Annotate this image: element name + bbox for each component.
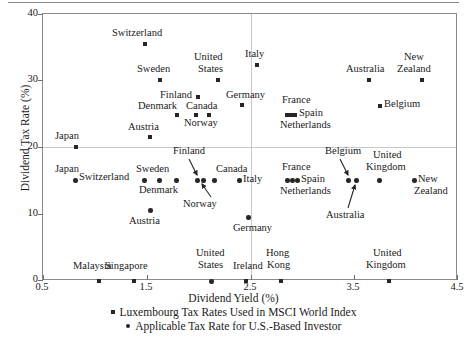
legend-entry-luxembourg: Luxembourg Tax Rates Used in MSCI World …: [0, 305, 467, 319]
x-axis-label-0-5: 0.5: [22, 282, 62, 292]
legend-entry-us-investor: Applicable Tax Rate for U.S.-Based Inves…: [0, 319, 467, 333]
x-axis-title: Dividend Yield (%): [0, 292, 467, 304]
top-rule: [8, 2, 459, 3]
legend-square-marker-icon: [111, 310, 115, 314]
x-axis-label-2-5: 2.5: [230, 282, 270, 292]
x-axis-label-3-5: 3.5: [333, 282, 373, 292]
plot-area: Japan Switzerland Sweden United States I…: [42, 13, 457, 280]
x-axis-label-4-5: 4.5: [437, 282, 467, 292]
leader-arrows: [43, 14, 458, 281]
arrow-australia: [348, 185, 355, 208]
chart-legend: Luxembourg Tax Rates Used in MSCI World …: [0, 305, 467, 333]
legend-label-us-investor: Applicable Tax Rate for U.S.-Based Inves…: [135, 319, 341, 333]
x-axis-label-1-5: 1.5: [126, 282, 166, 292]
y-axis-title: Dividend Tax Rate (%): [19, 8, 31, 268]
legend-circle-marker-icon: [126, 324, 131, 329]
arrow-norway: [202, 184, 211, 197]
arrow-finland: [189, 159, 197, 175]
chart-figure: Japan Switzerland Sweden United States I…: [0, 0, 467, 347]
arrow-belgium: [340, 159, 348, 175]
legend-label-luxembourg: Luxembourg Tax Rates Used in MSCI World …: [120, 305, 357, 319]
